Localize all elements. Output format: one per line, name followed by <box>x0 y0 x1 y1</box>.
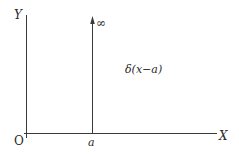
infinity-label: ∞ <box>96 17 106 29</box>
impulse-arrowhead-icon <box>90 16 95 24</box>
position-a-label: a <box>88 137 95 148</box>
x-axis-label: X <box>219 130 228 142</box>
y-axis-label: Y <box>14 9 22 21</box>
delta-function-label: δ(x−a) <box>125 64 162 75</box>
delta-function-diagram <box>0 0 239 155</box>
origin-label: O <box>14 135 24 147</box>
